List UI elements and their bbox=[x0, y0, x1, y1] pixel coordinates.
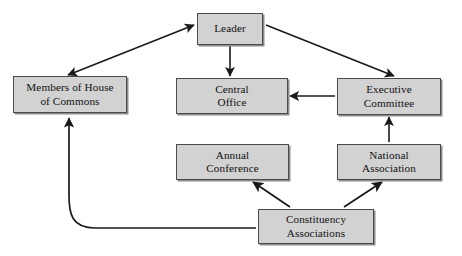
node-executive-committee-label: Executive Committee bbox=[361, 83, 418, 109]
node-members-of-house-of-commons-label: Members of House of Commons bbox=[23, 81, 116, 107]
node-leader[interactable]: Leader bbox=[197, 13, 263, 45]
edge-leader-exec-committee bbox=[266, 25, 394, 76]
node-national-association[interactable]: National Association bbox=[337, 144, 441, 180]
node-leader-label: Leader bbox=[211, 22, 249, 35]
node-executive-committee[interactable]: Executive Committee bbox=[337, 78, 441, 115]
node-constituency-associations-label: Constituency Associations bbox=[283, 213, 349, 239]
node-national-association-label: National Association bbox=[359, 149, 419, 175]
node-central-office-label: Central Office bbox=[212, 83, 252, 109]
node-annual-conference[interactable]: Annual Conference bbox=[176, 144, 289, 180]
node-central-office[interactable]: Central Office bbox=[176, 78, 288, 114]
edge-constituency-national-assoc bbox=[344, 182, 382, 207]
diagram-canvas: Leader Members of House of Commons Centr… bbox=[0, 0, 462, 256]
node-constituency-associations[interactable]: Constituency Associations bbox=[258, 209, 374, 244]
node-annual-conference-label: Annual Conference bbox=[203, 149, 262, 175]
node-members-of-house-of-commons[interactable]: Members of House of Commons bbox=[13, 76, 127, 113]
edge-leader-members bbox=[68, 25, 194, 75]
edge-constituency-annual-conference bbox=[253, 182, 290, 207]
